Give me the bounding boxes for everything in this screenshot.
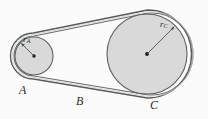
pulley-c xyxy=(107,14,187,94)
pulley-a xyxy=(15,37,53,75)
radius-label-c-subscript: C xyxy=(164,22,168,29)
pulley-c-label: C xyxy=(150,99,158,111)
pulley-a-label: A xyxy=(19,84,26,96)
radius-label-c: rC xyxy=(160,20,168,30)
figure-canvas xyxy=(0,0,208,119)
pulley-belt-figure: rA rC A B C xyxy=(0,0,208,119)
belt-b-label: B xyxy=(76,95,83,107)
radius-label-a-subscript: A xyxy=(27,37,31,44)
radius-label-a: rA xyxy=(23,35,31,45)
